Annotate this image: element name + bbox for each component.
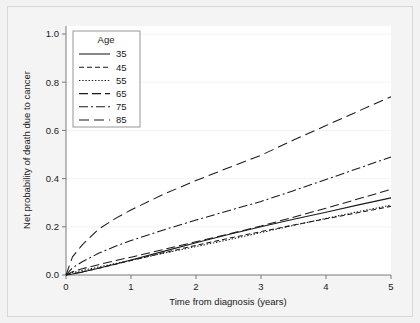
y-tick-label: 0.6 <box>46 125 59 136</box>
x-tick-label: 3 <box>258 281 263 292</box>
y-tick-label: 0.0 <box>46 269 59 280</box>
x-tick-label: 4 <box>323 281 328 292</box>
y-tick-label: 0.8 <box>46 77 59 88</box>
x-tick-label: 5 <box>388 281 393 292</box>
y-axis-title: Net probability of death due to cancer <box>21 71 32 229</box>
x-tick-label: 2 <box>193 281 198 292</box>
legend-label-55: 55 <box>116 75 127 86</box>
x-axis-title: Time from diagnosis (years) <box>169 296 286 307</box>
legend-label-85: 85 <box>116 114 127 125</box>
y-tick-label: 0.2 <box>46 221 59 232</box>
legend: Age 354555657585 <box>73 31 140 127</box>
x-tick-label: 1 <box>128 281 133 292</box>
legend-box <box>73 31 140 127</box>
y-tick-label: 0.4 <box>46 173 59 184</box>
legend-label-65: 65 <box>116 88 127 99</box>
y-tick-label: 1.0 <box>46 28 59 39</box>
legend-label-75: 75 <box>116 101 127 112</box>
line-chart: 0.00.20.40.60.81.0 012345 Net probabilit… <box>0 0 420 323</box>
legend-label-35: 35 <box>116 48 127 59</box>
figure-container: 0.00.20.40.60.81.0 012345 Net probabilit… <box>0 0 420 323</box>
y-axis-ticks: 0.00.20.40.60.81.0 <box>46 28 66 280</box>
x-axis-ticks: 012345 <box>63 275 393 292</box>
x-tick-label: 0 <box>63 281 68 292</box>
legend-title: Age <box>98 34 115 45</box>
legend-label-45: 45 <box>116 62 127 73</box>
